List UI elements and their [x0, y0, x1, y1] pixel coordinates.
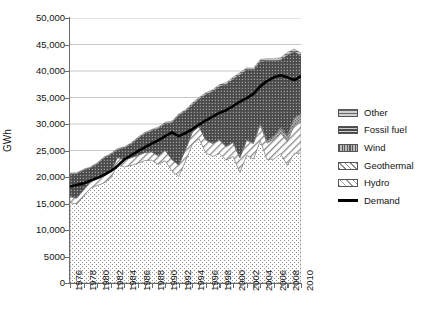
x-tick-label: 1996 — [210, 270, 220, 291]
chart-legend: OtherFossil fuelWindGeothermalHydroDeman… — [338, 104, 432, 210]
x-tick-label: 1976 — [74, 270, 84, 291]
x-tick-mark — [97, 283, 98, 288]
legend-label: Wind — [364, 143, 386, 153]
x-tick-mark — [219, 283, 220, 288]
legend-item-geothermal[interactable]: Geothermal — [338, 157, 432, 175]
legend-item-hydro[interactable]: Hydro — [338, 174, 432, 192]
x-tick-mark — [192, 283, 193, 288]
x-tick-mark — [118, 283, 119, 288]
stacked-area-chart-figure: GWh 0500010,00015,00020,00025,00030,0003… — [0, 0, 432, 334]
legend-label: Demand — [364, 196, 400, 206]
x-tick-label: 1990 — [169, 270, 179, 291]
x-tick-label: 2002 — [251, 270, 261, 291]
x-tick-mark — [145, 283, 146, 288]
x-tick-mark — [104, 283, 105, 288]
x-tick-mark — [267, 283, 268, 288]
x-tick-label: 1978 — [88, 270, 98, 291]
x-tick-mark — [253, 283, 254, 288]
x-tick-mark — [240, 283, 241, 288]
x-tick-mark — [226, 283, 227, 288]
fossil-fuel-swatch — [338, 126, 358, 134]
x-tick-label: 1984 — [128, 270, 138, 291]
x-tick-mark — [124, 283, 125, 288]
x-tick-mark — [152, 283, 153, 288]
other-swatch — [338, 109, 358, 117]
x-tick-label: 1980 — [101, 270, 111, 291]
x-tick-label: 2008 — [291, 270, 301, 291]
x-tick-label: 2006 — [278, 270, 288, 291]
x-tick-mark — [179, 283, 180, 288]
x-tick-label: 1998 — [223, 270, 233, 291]
x-tick-mark — [77, 283, 78, 288]
legend-item-other[interactable]: Other — [338, 104, 432, 122]
x-tick-label: 1988 — [156, 270, 166, 291]
x-tick-mark — [111, 283, 112, 288]
x-tick-label: 1986 — [142, 270, 152, 291]
x-tick-mark — [233, 283, 234, 288]
x-tick-mark — [186, 283, 187, 288]
x-tick-mark — [165, 283, 166, 288]
x-tick-mark — [199, 283, 200, 288]
legend-label: Fossil fuel — [364, 125, 407, 135]
x-tick-mark — [281, 283, 282, 288]
legend-item-fossil-fuel[interactable]: Fossil fuel — [338, 122, 432, 140]
legend-label: Other — [364, 108, 388, 118]
x-tick-label: 1982 — [115, 270, 125, 291]
hydro-swatch — [338, 179, 358, 187]
legend-label: Geothermal — [364, 161, 414, 171]
demand-swatch — [338, 199, 358, 202]
x-tick-mark — [294, 283, 295, 288]
legend-item-demand[interactable]: Demand — [338, 192, 432, 210]
x-tick-label: 2010 — [305, 270, 315, 291]
x-tick-mark — [301, 283, 302, 288]
x-tick-mark — [206, 283, 207, 288]
x-tick-mark — [172, 283, 173, 288]
x-tick-mark — [158, 283, 159, 288]
x-tick-mark — [287, 283, 288, 288]
x-tick-mark — [247, 283, 248, 288]
x-tick-mark — [138, 283, 139, 288]
legend-item-wind[interactable]: Wind — [338, 139, 432, 157]
x-tick-mark — [131, 283, 132, 288]
wind-swatch — [338, 144, 358, 152]
x-tick-label: 1994 — [196, 270, 206, 291]
geothermal-swatch — [338, 162, 358, 170]
x-tick-label: 1992 — [183, 270, 193, 291]
x-tick-mark — [213, 283, 214, 288]
x-tick-mark — [260, 283, 261, 288]
legend-label: Hydro — [364, 178, 389, 188]
x-tick-label: 2004 — [264, 270, 274, 291]
x-tick-label: 2000 — [237, 270, 247, 291]
x-tick-mark — [84, 283, 85, 288]
x-tick-mark — [274, 283, 275, 288]
x-tick-mark — [90, 283, 91, 288]
x-tick-mark — [70, 283, 71, 288]
